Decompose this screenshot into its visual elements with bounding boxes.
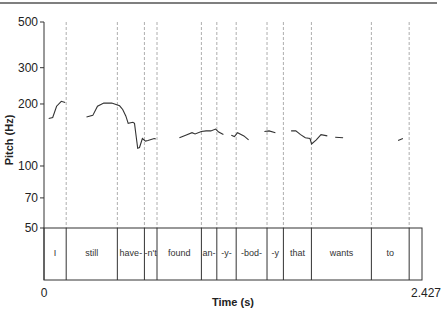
segment-label: to xyxy=(387,248,395,258)
transcript-box xyxy=(44,228,422,280)
y-tick-label: 200 xyxy=(18,97,38,111)
x-axis-label: Time (s) xyxy=(212,296,254,308)
segment-label: -y- xyxy=(221,248,232,258)
y-axis-ticks: 5003002001007050 xyxy=(18,15,44,235)
segment-label: have- xyxy=(120,248,143,258)
y-axis-label: Pitch (Hz) xyxy=(3,114,15,165)
y-tick-label: 100 xyxy=(18,159,38,173)
y-tick-label: 50 xyxy=(25,221,39,235)
y-tick-label: 300 xyxy=(18,61,38,75)
segment-label: -bod- xyxy=(241,248,262,258)
segment-label: that xyxy=(290,248,306,258)
y-tick-label: 500 xyxy=(18,15,38,29)
segment-label: wants xyxy=(329,248,354,258)
transcript-segments: Istillhave--n'tfoundan--y--bod--ythatwan… xyxy=(54,228,409,280)
segment-label: -y xyxy=(271,248,279,258)
segment-boundaries xyxy=(66,22,409,228)
y-tick-label: 70 xyxy=(25,191,39,205)
segment-label: found xyxy=(168,248,191,258)
pitch-contour-line xyxy=(49,101,403,148)
segment-label: I xyxy=(54,248,57,258)
segment-label: -n't xyxy=(145,248,158,258)
x-tick-start: 0 xyxy=(41,286,48,300)
segment-label: still xyxy=(85,248,98,258)
x-tick-end: 2.427 xyxy=(411,286,441,300)
segment-label: an- xyxy=(203,248,216,258)
pitch-chart: 5003002001007050 Istillhave--n'tfoundan-… xyxy=(0,0,447,312)
